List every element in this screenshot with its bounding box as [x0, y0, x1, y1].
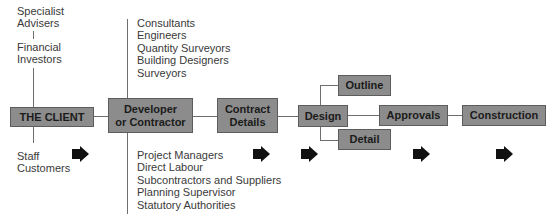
connector-design-approvals [347, 115, 379, 116]
label-financial: Financial [17, 41, 62, 53]
connector-approvals-construction [447, 115, 462, 116]
label-statutory-authorities: Statutory Authorities [137, 199, 281, 211]
connector-client-staff [33, 126, 34, 143]
detail-box-label: Detail [350, 133, 380, 146]
connector-developer-above [127, 19, 128, 99]
client-advisers-group: Specialist Advisers [17, 5, 64, 30]
contract-box-line2: Details [229, 116, 265, 129]
label-quantity-surveyors: Quantity Surveyors [137, 42, 231, 54]
design-box-label: Design [305, 110, 342, 123]
label-subcontractors-suppliers: Subcontractors and Suppliers [137, 174, 281, 186]
outline-box: Outline [338, 75, 391, 96]
client-box-label: THE CLIENT [20, 111, 85, 124]
developer-box-line2: or Contractor [115, 116, 185, 129]
label-engineers: Engineers [137, 29, 231, 41]
developer-above-list: Consultants Engineers Quantity Surveyors… [137, 17, 231, 79]
label-specialist: Specialist [17, 5, 64, 17]
connector-branch-outline [320, 85, 338, 86]
client-investors-group: Financial Investors [17, 41, 62, 66]
connector-advisers-financial [33, 31, 34, 39]
right-arrow-icon [413, 146, 430, 162]
contract-box-line1: Contract [225, 103, 270, 116]
developer-box: Developer or Contractor [108, 98, 193, 133]
contract-details-box: Contract Details [217, 98, 278, 133]
label-building-designers: Building Designers [137, 54, 231, 66]
label-customers: Customers [17, 162, 70, 174]
connector-contract-design [277, 116, 298, 117]
label-consultants: Consultants [137, 17, 231, 29]
construction-process-diagram: Specialist Advisers Financial Investors … [0, 0, 556, 222]
client-below-group: Staff Customers [17, 150, 70, 175]
connector-branch-detail [320, 140, 338, 141]
label-investors: Investors [17, 53, 62, 65]
construction-box: Construction [462, 105, 546, 126]
connector-developer-contract [192, 116, 217, 117]
developer-box-line1: Developer [124, 103, 177, 116]
connector-client-developer [93, 116, 108, 117]
right-arrow-icon [301, 146, 318, 162]
client-box: THE CLIENT [10, 107, 94, 127]
label-advisers: Advisers [17, 17, 64, 29]
right-arrow-icon [72, 146, 89, 162]
label-planning-supervisor: Planning Supervisor [137, 186, 281, 198]
design-box: Design [298, 105, 348, 127]
label-direct-labour: Direct Labour [137, 161, 281, 173]
detail-box: Detail [338, 129, 391, 150]
outline-box-label: Outline [346, 79, 384, 92]
connector-developer-below [127, 132, 128, 214]
approvals-box: Approvals [379, 105, 448, 126]
label-staff: Staff [17, 150, 70, 162]
label-surveyors: Surveyors [137, 67, 231, 79]
right-arrow-icon [496, 146, 513, 162]
right-arrow-icon [253, 146, 270, 162]
approvals-box-label: Approvals [387, 109, 441, 122]
construction-box-label: Construction [470, 109, 538, 122]
connector-investors-client [33, 68, 34, 108]
